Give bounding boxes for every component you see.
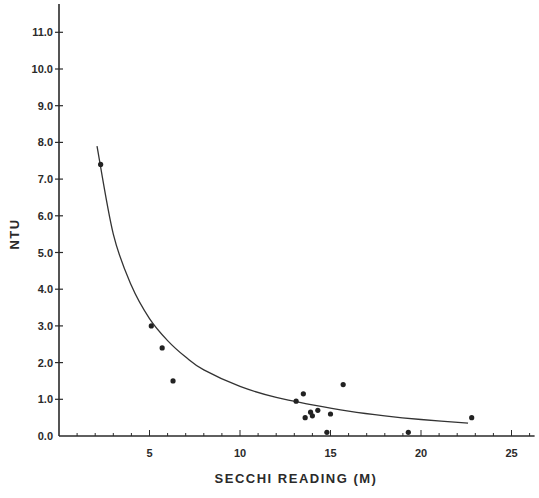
data-point bbox=[160, 345, 165, 350]
data-point bbox=[98, 162, 103, 167]
x-tick-label: 15 bbox=[324, 447, 336, 459]
y-tick-label: 6.0 bbox=[38, 210, 53, 222]
y-tick-label: 3.0 bbox=[38, 320, 53, 332]
data-point bbox=[406, 430, 411, 435]
x-tick-label: 5 bbox=[146, 447, 152, 459]
y-tick-label: 4.0 bbox=[38, 283, 53, 295]
y-tick-label: 1.0 bbox=[38, 393, 53, 405]
data-point bbox=[294, 399, 299, 404]
data-point bbox=[469, 415, 474, 420]
y-axis-title: NTU bbox=[7, 218, 22, 249]
data-point bbox=[324, 430, 329, 435]
data-point bbox=[328, 411, 333, 416]
y-tick-label: 11.0 bbox=[32, 26, 53, 38]
x-tick-label: 10 bbox=[234, 447, 246, 459]
y-tick-label: 9.0 bbox=[38, 100, 53, 112]
x-tick-label: 20 bbox=[415, 447, 427, 459]
data-point bbox=[341, 382, 346, 387]
y-tick-label: 2.0 bbox=[38, 357, 53, 369]
data-point bbox=[315, 408, 320, 413]
y-tick-label: 0.0 bbox=[38, 430, 53, 442]
y-tick-label: 10.0 bbox=[32, 63, 53, 75]
axes: 5101520250.01.02.03.04.05.06.07.08.09.01… bbox=[32, 4, 535, 459]
x-axis-title: SECCHI READING (M) bbox=[215, 471, 378, 486]
data-point bbox=[149, 323, 154, 328]
data-point bbox=[301, 391, 306, 396]
x-tick-label: 25 bbox=[505, 447, 517, 459]
data-points bbox=[98, 162, 474, 435]
data-point bbox=[310, 413, 315, 418]
y-tick-label: 8.0 bbox=[38, 136, 53, 148]
chart: 5101520250.01.02.03.04.05.06.07.08.09.01… bbox=[0, 0, 539, 498]
data-point bbox=[303, 415, 308, 420]
y-tick-label: 5.0 bbox=[38, 247, 53, 259]
data-point bbox=[170, 378, 175, 383]
y-tick-label: 7.0 bbox=[38, 173, 53, 185]
fitted-curve bbox=[97, 146, 468, 423]
fitted-curve-path bbox=[97, 146, 468, 423]
